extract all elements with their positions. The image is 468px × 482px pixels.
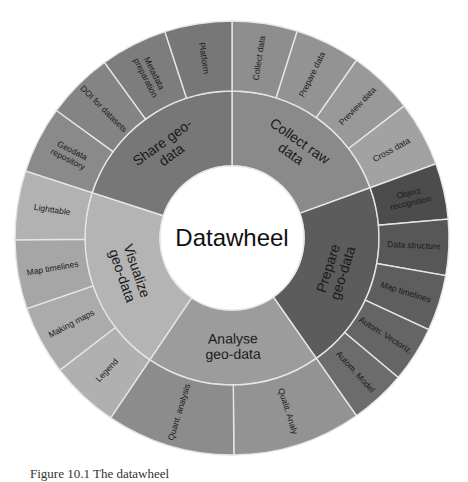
sector-label-analyse-geo-data-text: Analyse — [208, 330, 258, 346]
hub-label: Datawheel — [175, 224, 288, 251]
figure-caption: Figure 10.1 The datawheel — [30, 466, 169, 482]
sector-label-analyse-geo-data-text: geo-data — [205, 346, 261, 362]
sector-label-analyse-geo-data: Analysegeo-data — [205, 330, 261, 362]
